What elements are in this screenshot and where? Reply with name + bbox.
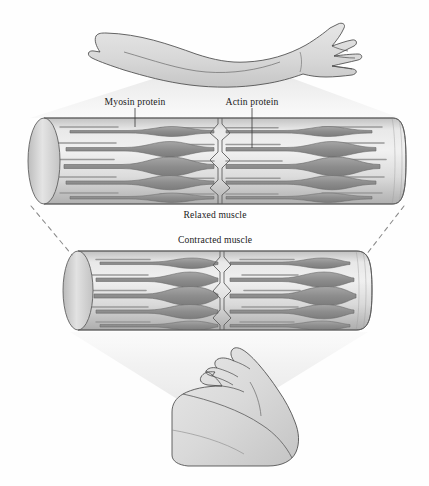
label-contracted-muscle: Contracted muscle (178, 234, 252, 245)
label-actin-protein: Actin protein (226, 96, 279, 107)
figure-canvas: Myosin protein Actin protein Relaxed mus… (0, 0, 429, 486)
label-myosin-protein: Myosin protein (105, 96, 166, 107)
label-relaxed-muscle: Relaxed muscle (183, 209, 246, 220)
